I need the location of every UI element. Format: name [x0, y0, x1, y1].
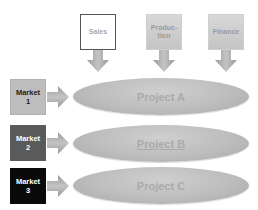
project-link[interactable]: Project B: [137, 138, 185, 150]
project-label: Project A: [137, 91, 185, 103]
right-arrow-icon: [47, 86, 69, 108]
project-ellipse-b[interactable]: Project B: [73, 125, 249, 162]
market-box-2: Market 2: [10, 125, 46, 161]
dept-label: Sales: [89, 28, 107, 36]
dept-box-sales: Sales: [80, 14, 116, 50]
project-ellipse-a: Project A: [73, 78, 249, 115]
right-arrow-icon: [47, 132, 69, 154]
right-arrow-icon: [47, 175, 69, 197]
dept-label: Produc- tion: [151, 24, 177, 40]
market-label: Market 2: [16, 134, 40, 153]
down-arrow-icon: [215, 50, 237, 72]
market-box-3: Market 3: [10, 168, 46, 204]
down-arrow-icon: [153, 50, 175, 72]
project-label: Project C: [137, 180, 185, 192]
market-label: Market 1: [16, 88, 40, 107]
dept-box-production: Produc- tion: [146, 14, 182, 50]
dept-label: Finance: [213, 28, 239, 36]
market-label: Market 3: [16, 177, 40, 196]
project-ellipse-c: Project C: [73, 167, 249, 204]
market-box-1: Market 1: [10, 79, 46, 115]
dept-box-finance: Finance: [208, 14, 244, 50]
down-arrow-icon: [87, 50, 109, 72]
